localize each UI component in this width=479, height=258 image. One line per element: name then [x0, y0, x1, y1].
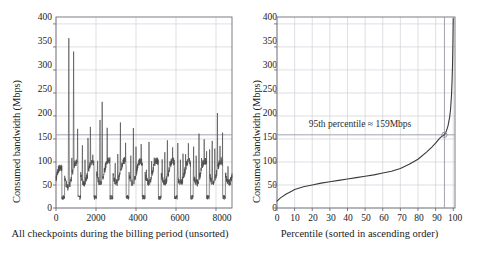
left-plot-area	[0, 0, 240, 258]
figure-container: Consumed bandwidth (Mbps) All checkpoint…	[0, 0, 479, 258]
chart-panel-left: Consumed bandwidth (Mbps) All checkpoint…	[0, 0, 240, 258]
right-plot-area: 95th percentile ≈ 159Mbps	[240, 0, 479, 258]
chart-panel-right: Consumed bandwidth (Mbps) Percentile (so…	[240, 0, 479, 258]
percentile-annotation: 95th percentile ≈ 159Mbps	[309, 119, 412, 129]
